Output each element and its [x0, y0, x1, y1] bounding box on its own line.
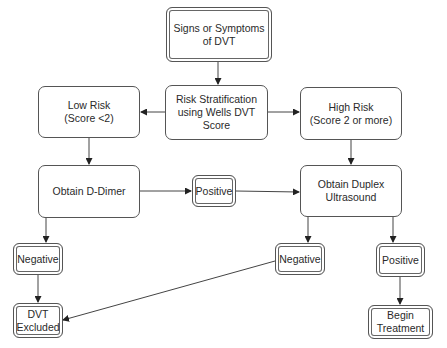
- node-label: Obtain Duplex Ultrasound: [318, 178, 385, 204]
- node-label: Negative: [279, 253, 320, 266]
- edge-negative-to-dvt-excluded-diagonal: [63, 261, 275, 320]
- node-obtain-duplex-ultrasound: Obtain Duplex Ultrasound: [300, 165, 402, 217]
- node-duplex-negative: Negative: [275, 243, 325, 275]
- node-signs-or-symptoms: Signs or Symptoms of DVT: [166, 7, 272, 62]
- node-label: Positive: [382, 254, 419, 267]
- node-label: High Risk (Score 2 or more): [310, 101, 392, 127]
- flowchart-canvas: Signs or Symptoms of DVT Risk Stratifica…: [0, 0, 447, 348]
- node-duplex-positive: Positive: [376, 243, 425, 277]
- node-label: Obtain D-Dimer: [53, 185, 126, 198]
- node-d-dimer-positive: Positive: [192, 175, 236, 207]
- node-label: DVT Excluded: [16, 308, 59, 334]
- node-obtain-d-dimer: Obtain D-Dimer: [38, 165, 140, 218]
- node-label: Begin Treatment: [377, 309, 424, 335]
- node-label: Signs or Symptoms of DVT: [173, 22, 264, 48]
- node-label: Risk Stratification using Wells DVT Scor…: [176, 93, 257, 132]
- node-dvt-excluded: DVT Excluded: [13, 303, 63, 338]
- node-low-risk: Low Risk (Score <2): [38, 86, 140, 138]
- edge-positive-to-duplex: [236, 191, 299, 192]
- node-label: Negative: [17, 253, 58, 266]
- node-label: Positive: [196, 185, 233, 198]
- node-label: Low Risk (Score <2): [64, 99, 113, 125]
- node-begin-treatment: Begin Treatment: [368, 305, 433, 339]
- node-high-risk: High Risk (Score 2 or more): [300, 87, 402, 140]
- node-d-dimer-negative: Negative: [13, 243, 63, 275]
- node-risk-stratification: Risk Stratification using Wells DVT Scor…: [165, 85, 268, 140]
